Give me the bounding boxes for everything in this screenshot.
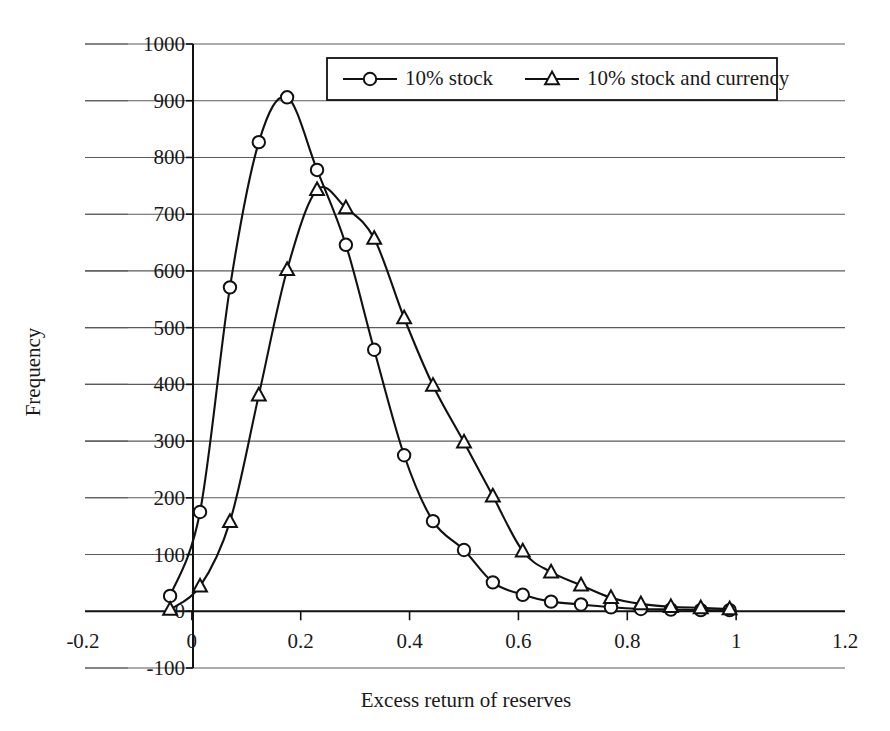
axis-lines <box>85 44 845 668</box>
circle-marker <box>224 281 236 293</box>
series-line <box>170 97 730 611</box>
circle-marker <box>194 506 206 518</box>
series-2 <box>163 182 736 614</box>
x-tick-label: 1.2 <box>832 629 858 653</box>
circle-marker <box>253 136 265 148</box>
x-tick-label: 0 <box>187 629 198 653</box>
circle-marker <box>545 595 557 607</box>
x-tick-marks <box>192 611 736 620</box>
circle-marker <box>368 344 380 356</box>
circle-marker <box>575 598 587 610</box>
x-tick-label: 0.4 <box>396 629 423 653</box>
triangle-marker <box>193 579 207 592</box>
y-tick-label: 600 <box>154 259 186 283</box>
triangle-marker <box>544 565 558 578</box>
circle-marker <box>458 544 470 556</box>
legend-label: 10% stock and currency <box>587 66 790 90</box>
circle-marker <box>340 239 352 251</box>
y-tick-label: 300 <box>154 429 186 453</box>
circle-marker <box>364 73 376 85</box>
circle-marker <box>398 449 410 461</box>
y-tick-label: 1000 <box>143 32 185 56</box>
y-tick-label: 100 <box>154 543 186 567</box>
y-axis-title: Frequency <box>21 327 45 416</box>
y-tick-label: 500 <box>154 316 186 340</box>
x-tick-labels: -0.200.20.40.60.811.2 <box>66 629 858 653</box>
y-tick-labels: -10001002003004005006007008009001000 <box>143 32 185 680</box>
triangle-marker <box>280 262 294 275</box>
y-tick-label: 700 <box>154 202 186 226</box>
circle-marker <box>487 576 499 588</box>
x-tick-label: 0.8 <box>614 629 640 653</box>
y-tick-label: 800 <box>154 145 186 169</box>
x-tick-label: -0.2 <box>66 629 99 653</box>
triangle-marker <box>397 311 411 324</box>
circle-marker <box>281 91 293 103</box>
x-tick-label: 0.2 <box>288 629 314 653</box>
circle-marker <box>427 515 439 527</box>
triangle-marker <box>486 489 500 502</box>
triangle-marker <box>223 514 237 527</box>
chart-container: -10001002003004005006007008009001000 -0.… <box>0 0 890 731</box>
series-plot-area <box>163 91 736 616</box>
legend-label: 10% stock <box>405 66 494 90</box>
x-tick-label: 0.6 <box>505 629 531 653</box>
y-tick-label: 900 <box>154 89 186 113</box>
legend: 10% stock10% stock and currency <box>327 58 790 100</box>
gridlines <box>85 44 845 668</box>
frequency-line-chart: -10001002003004005006007008009001000 -0.… <box>0 0 890 731</box>
y-tick-label: 400 <box>154 372 186 396</box>
triangle-marker <box>367 231 381 244</box>
circle-marker <box>311 164 323 176</box>
y-tick-label: 200 <box>154 486 186 510</box>
y-tick-label: -100 <box>147 656 186 680</box>
series-1 <box>164 91 736 616</box>
triangle-marker <box>252 388 266 401</box>
x-tick-label: 1 <box>731 629 742 653</box>
circle-marker <box>517 589 529 601</box>
x-axis-title: Excess return of reserves <box>361 688 572 712</box>
